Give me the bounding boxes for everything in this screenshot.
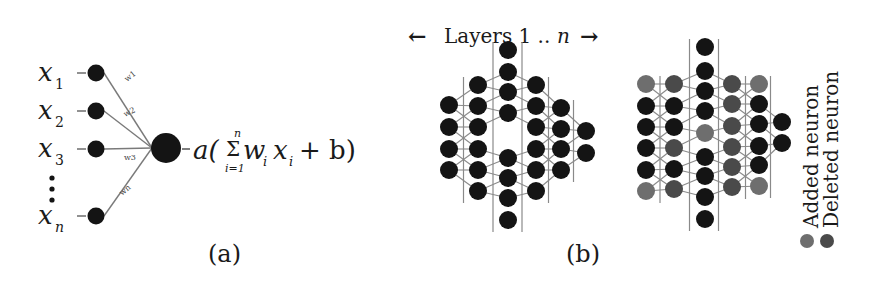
output-neuron: [151, 133, 181, 163]
input-label: x: [38, 133, 53, 163]
left-arrow-icon: ←: [408, 23, 426, 49]
weight-edges: [104, 73, 152, 216]
input-label-subscript: 3: [55, 152, 64, 168]
neuron: [665, 118, 683, 136]
neuron: [469, 76, 487, 94]
formula-sum-symbol: Σ: [226, 137, 240, 161]
neuron: [527, 140, 545, 158]
ellipsis-dots: [49, 175, 54, 202]
edges: [646, 39, 782, 231]
input-label-subscript: n: [55, 219, 64, 235]
neuron: [469, 140, 487, 158]
neuron: [637, 97, 655, 115]
neuron: [469, 161, 487, 179]
deleted-neuron: [665, 180, 683, 198]
input-label-subscript: 2: [55, 114, 64, 130]
edges: [449, 42, 586, 232]
weight-label: w3: [124, 153, 136, 162]
right-arrow-icon: →: [580, 23, 598, 49]
deleted-neuron: [665, 75, 683, 93]
neuron: [750, 137, 768, 155]
input-label: x: [38, 95, 53, 125]
weight-edge: [104, 148, 152, 149]
added-neuron: [637, 75, 655, 93]
original-network: [440, 41, 595, 232]
neuron: [499, 169, 517, 187]
neuron: [750, 95, 768, 113]
formula-activation: a(: [193, 135, 220, 165]
neuron: [773, 113, 791, 131]
input-label: x: [38, 57, 53, 87]
activation-formula: a( Σ n i=1 w i x i + b): [193, 127, 356, 175]
input-label-group: x1w1x2w2x3w3xnwn: [38, 57, 138, 235]
neuron: [499, 63, 517, 81]
deleted-neuron: [723, 178, 741, 196]
formula-x-sub: i: [289, 154, 293, 169]
input-neuron: [88, 103, 105, 120]
neuron: [577, 122, 595, 140]
neuron: [696, 62, 714, 80]
neuron: [696, 148, 714, 166]
legend-added-swatch: [800, 234, 814, 248]
neuron: [527, 161, 545, 179]
input-neuron: [88, 65, 105, 82]
neuron: [469, 118, 487, 136]
neuron: [773, 134, 791, 152]
panel-b-network-growth: ← Layers 1 .. n → (b) Added neuron Delet…: [408, 23, 843, 268]
neuron: [527, 76, 545, 94]
neuron: [696, 102, 714, 120]
input-neuron: [88, 208, 105, 225]
neuron: [696, 38, 714, 56]
neuron: [577, 144, 595, 162]
weight-label: wn: [118, 183, 133, 198]
added-neuron: [637, 182, 655, 200]
input-label: x: [38, 200, 53, 230]
neuron: [499, 83, 517, 101]
layers-label: Layers 1 ..: [444, 24, 550, 48]
neuron: [750, 115, 768, 133]
neuron: [637, 139, 655, 157]
neuron: [552, 120, 570, 138]
deleted-neuron: [723, 95, 741, 113]
neuron: [750, 156, 768, 174]
figure-canvas: a( Σ n i=1 w i x i + b) (a) ← Layers 1 .…: [0, 0, 877, 283]
panel-a-single-neuron: a( Σ n i=1 w i x i + b) (a): [49, 65, 355, 269]
neuron: [552, 99, 570, 117]
deleted-neuron: [723, 117, 741, 135]
neuron: [527, 118, 545, 136]
deleted-neuron: [723, 75, 741, 93]
added-neuron: [750, 75, 768, 93]
modified-network: [637, 38, 791, 231]
neuron: [499, 149, 517, 167]
neuron: [440, 140, 458, 158]
neuron: [527, 182, 545, 200]
deleted-neuron: [723, 138, 741, 156]
formula-w: w: [243, 135, 265, 165]
legend-deleted-label: Deleted neuron: [819, 71, 843, 228]
neuron: [696, 82, 714, 100]
weight-label: w2: [122, 106, 137, 119]
caption-b: (b): [566, 240, 600, 268]
added-neuron: [696, 124, 714, 142]
neuron: [696, 188, 714, 206]
formula-plus-b: + b): [299, 135, 356, 165]
neuron: [499, 211, 517, 229]
neuron: [665, 97, 683, 115]
legend-deleted-swatch: [820, 234, 834, 248]
formula-sum-lower: i=1: [225, 162, 245, 175]
neuron: [527, 97, 545, 115]
neuron: [637, 118, 655, 136]
formula-sum-upper: n: [234, 127, 241, 140]
neuron: [469, 182, 487, 200]
neuron: [440, 96, 458, 114]
neuron: [499, 41, 517, 59]
neuron: [696, 167, 714, 185]
neuron: [552, 140, 570, 158]
deleted-neuron: [723, 158, 741, 176]
formula-w-sub: i: [263, 154, 267, 169]
deleted-neuron: [665, 139, 683, 157]
neuron: [696, 210, 714, 228]
neuron: [637, 161, 655, 179]
caption-a: (a): [208, 240, 241, 268]
input-label-subscript: 1: [55, 76, 64, 92]
